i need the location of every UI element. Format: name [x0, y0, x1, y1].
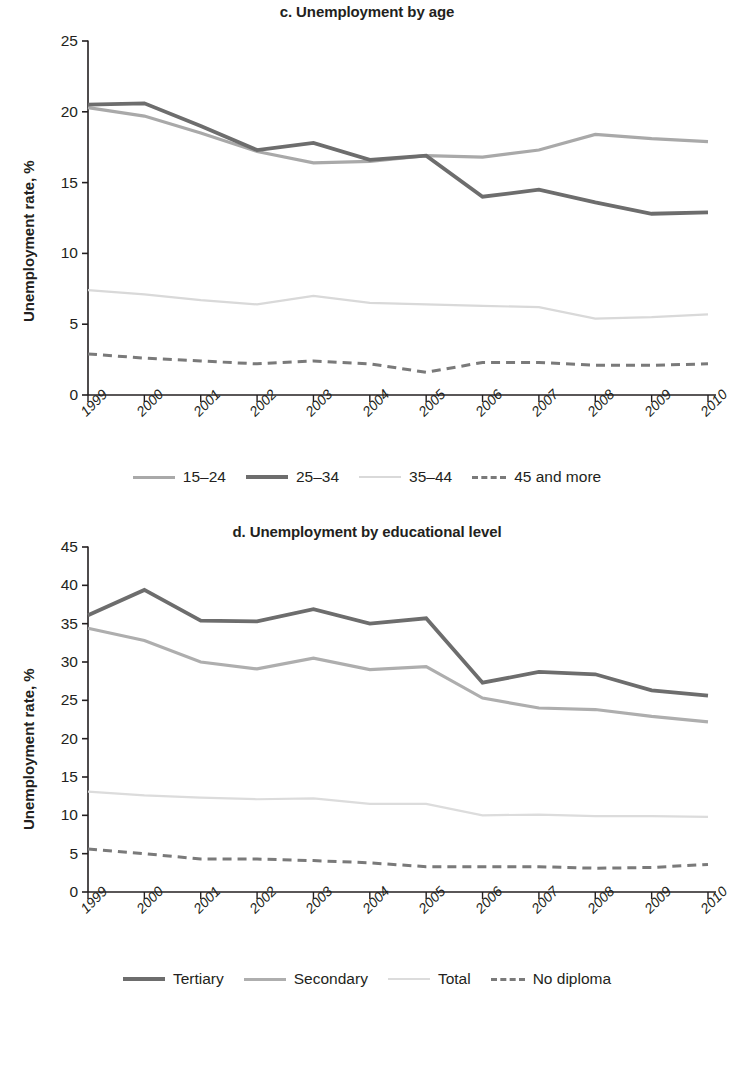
legend-item-45-and-more[interactable]: 45 and more: [472, 468, 601, 486]
legend-label: 45 and more: [514, 468, 601, 486]
legend-swatch-icon: [246, 475, 288, 479]
legend-swatch-icon: [123, 977, 165, 981]
chart-c-series-line: [88, 108, 708, 163]
chart-d-svg: [88, 547, 708, 892]
legend-item-15-24[interactable]: 15–24: [133, 468, 226, 486]
chart-d-series-line: [88, 590, 708, 696]
legend-item-secondary[interactable]: Secondary: [244, 970, 368, 988]
legend-item-total[interactable]: Total: [388, 970, 471, 988]
chart-c-plot-area: [88, 41, 708, 395]
chart-c-series-line: [88, 290, 708, 318]
chart-c-y-axis-label: Unemployment rate, %: [20, 160, 37, 322]
legend-swatch-icon: [244, 978, 286, 981]
chart-c-title: c. Unemployment by age: [0, 3, 734, 20]
chart-d-plot-area: [88, 547, 708, 892]
chart-d-y-tick-label: 25: [36, 691, 78, 709]
chart-d-y-tick-label: 45: [36, 538, 78, 556]
legend-item-25-34[interactable]: 25–34: [246, 468, 339, 486]
legend-swatch-icon: [491, 978, 525, 981]
legend-label: No diploma: [533, 970, 611, 988]
legend-swatch-icon: [388, 978, 430, 980]
legend-item-tertiary[interactable]: Tertiary: [123, 970, 224, 988]
chart-d-y-tick-label: 0: [36, 883, 78, 901]
legend-swatch-icon: [472, 476, 506, 479]
chart-c-y-tick-label: 5: [36, 315, 78, 333]
legend-swatch-icon: [133, 476, 175, 479]
chart-c-y-tick-label: 25: [36, 32, 78, 50]
chart-d-legend: TertiarySecondaryTotalNo diploma: [0, 970, 734, 988]
chart-c-y-tick-label: 10: [36, 244, 78, 262]
legend-item-no-diploma[interactable]: No diploma: [491, 970, 611, 988]
chart-panel-unemployment-by-age: c. Unemployment by age Unemployment rate…: [0, 0, 734, 520]
legend-label: Tertiary: [173, 970, 224, 988]
chart-d-title: d. Unemployment by educational level: [0, 523, 734, 540]
legend-label: 15–24: [183, 468, 226, 486]
legend-swatch-icon: [359, 476, 401, 478]
legend-label: 25–34: [296, 468, 339, 486]
legend-label: Total: [438, 970, 471, 988]
chart-d-y-tick-label: 5: [36, 845, 78, 863]
chart-d-y-tick-label: 40: [36, 576, 78, 594]
chart-c-legend: 15–2425–3435–4445 and more: [0, 468, 734, 486]
chart-d-y-tick-label: 20: [36, 730, 78, 748]
chart-c-series-line: [88, 354, 708, 372]
chart-d-series-line: [88, 849, 708, 868]
legend-label: 35–44: [409, 468, 452, 486]
chart-c-svg: [88, 41, 708, 395]
chart-panel-unemployment-by-educational-level: d. Unemployment by educational level Une…: [0, 520, 734, 1074]
chart-c-y-tick-label: 15: [36, 174, 78, 192]
legend-item-35-44[interactable]: 35–44: [359, 468, 452, 486]
chart-d-y-tick-label: 35: [36, 615, 78, 633]
chart-c-y-tick-label: 0: [36, 386, 78, 404]
chart-d-y-tick-label: 10: [36, 806, 78, 824]
chart-d-series-line: [88, 792, 708, 817]
chart-d-y-tick-label: 15: [36, 768, 78, 786]
legend-label: Secondary: [294, 970, 368, 988]
chart-d-y-tick-label: 30: [36, 653, 78, 671]
chart-d-y-axis-label: Unemployment rate, %: [20, 668, 37, 830]
chart-c-series-line: [88, 103, 708, 213]
chart-c-y-tick-label: 20: [36, 103, 78, 121]
chart-d-series-line: [88, 628, 708, 722]
